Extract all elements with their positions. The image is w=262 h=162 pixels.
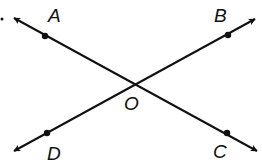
point-a: [42, 33, 48, 39]
label-d: D: [47, 143, 61, 162]
point-c: [224, 130, 230, 136]
label-b: B: [214, 5, 227, 26]
stray-dot: [1, 18, 4, 21]
intersecting-lines-diagram: A B C D O: [0, 0, 262, 162]
point-b: [225, 32, 231, 38]
label-o: O: [124, 93, 139, 114]
label-c: C: [213, 141, 227, 162]
point-d: [44, 130, 50, 136]
label-a: A: [47, 5, 61, 26]
